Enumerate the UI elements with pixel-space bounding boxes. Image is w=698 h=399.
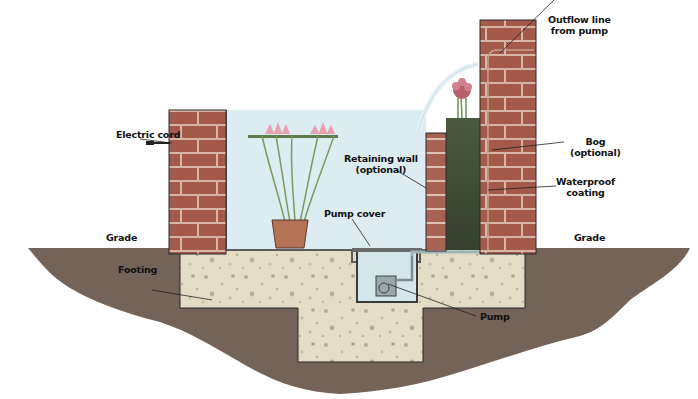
label-footing: Footing — [118, 264, 157, 275]
label-waterproof-2: coating — [556, 187, 615, 198]
bog-plant — [452, 78, 472, 118]
label-retaining-wall-1: Retaining wall — [344, 153, 418, 164]
label-pump: Pump — [480, 311, 510, 322]
label-waterproof-1: Waterproof — [556, 176, 615, 187]
label-bog: Bog (optional) — [570, 136, 621, 158]
label-retaining-wall-2: (optional) — [344, 164, 418, 175]
label-bog-2: (optional) — [570, 147, 621, 158]
label-grade-right: Grade — [574, 232, 605, 243]
label-electric-cord: Electric cord — [116, 129, 180, 140]
label-outflow-line: Outflow line from pump — [548, 14, 611, 36]
label-grade-left: Grade — [106, 232, 137, 243]
plant-pot — [272, 220, 308, 248]
label-outflow-line-1: Outflow line — [548, 14, 611, 25]
label-pump-cover: Pump cover — [324, 208, 385, 219]
label-retaining-wall: Retaining wall (optional) — [344, 153, 418, 175]
label-bog-1: Bog — [570, 136, 621, 147]
label-outflow-line-2: from pump — [548, 25, 611, 36]
retaining-wall — [426, 133, 446, 251]
pond-diagram — [0, 0, 698, 399]
label-waterproof-coating: Waterproof coating — [556, 176, 615, 198]
bog — [446, 118, 480, 250]
